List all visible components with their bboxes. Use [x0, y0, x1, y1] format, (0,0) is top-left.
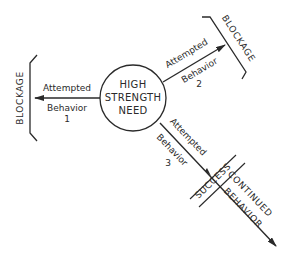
branch-1-label-line-1: Attempted	[43, 83, 91, 93]
branch-1-number: 1	[64, 114, 70, 124]
branch-3: Attempted Behavior 3 SUCCESS CONTINUED B…	[155, 116, 276, 246]
blockage-1-label: BLOCKAGE	[15, 71, 25, 124]
center-node-line-1: HIGH	[120, 79, 147, 90]
center-node-line-2: STRENGTH	[105, 92, 162, 103]
high-strength-need-node: HIGH STRENGTH NEED	[100, 65, 166, 131]
branch-1-label-line-2: Behavior	[47, 103, 87, 113]
center-node-line-3: NEED	[118, 105, 147, 116]
branch-2-number: 2	[196, 79, 202, 89]
branch-3-number: 3	[165, 158, 171, 168]
branch-1: Attempted Behavior 1 BLOCKAGE	[15, 55, 100, 141]
need-behavior-diagram: HIGH STRENGTH NEED Attempted Behavior 1 …	[0, 0, 295, 267]
blockage-2-label: BLOCKAGE	[220, 13, 257, 63]
branch-2: Attempted Behavior 2 BLOCKAGE	[163, 13, 257, 89]
